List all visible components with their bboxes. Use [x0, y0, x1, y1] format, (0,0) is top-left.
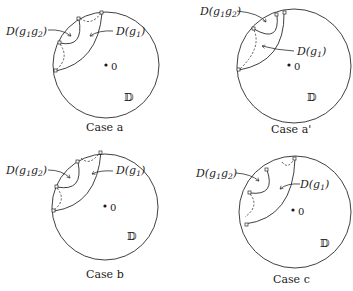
disk-label: 𝔻: [127, 230, 137, 243]
panel-case-b: D(g1g2) D(g1) 0 𝔻 Case b: [5, 151, 158, 281]
dashed-geodesic-left: [56, 44, 64, 70]
dashed-geodesic-top: [282, 159, 294, 165]
origin-label: 0: [298, 206, 304, 217]
arrow-to-g1: [90, 31, 113, 36]
geodesic-g1g2: [250, 170, 269, 193]
geodesic-g1: [245, 159, 295, 224]
right-angle-marker: [77, 17, 80, 20]
right-angle-marker: [283, 11, 286, 14]
arrow-to-g1g2: [48, 170, 70, 178]
dashed-geodesic-left: [54, 188, 61, 210]
right-angle-marker: [293, 157, 296, 160]
origin-dot: [287, 63, 290, 66]
right-angle-marker: [245, 223, 248, 226]
label-d-g1g2: D(g1g2): [5, 164, 47, 178]
panel-case-c: D(g1g2) D(g1) 0 𝔻 Case c: [195, 156, 351, 286]
origin-label: 0: [110, 202, 116, 213]
right-angle-marker: [248, 191, 251, 194]
panel-case-a-prime: D(g1g2) D(g1) 0 𝔻 Case a': [199, 5, 351, 136]
label-d-g1: D(g1): [296, 45, 326, 59]
arrow-to-g1: [262, 46, 294, 51]
label-d-g1g2: D(g1g2): [195, 167, 237, 181]
label-d-g1: D(g1): [115, 25, 145, 39]
arrow-to-g1g2: [48, 30, 71, 36]
origin-dot: [104, 63, 107, 66]
disk-label: 𝔻: [320, 237, 330, 250]
panel-case-a: D(g1g2) D(g1) 0 𝔻 Case a: [5, 11, 159, 134]
origin-dot: [103, 204, 106, 207]
unit-disk-boundary: [239, 156, 351, 268]
dashed-geodesic-left: [240, 30, 256, 69]
arrow-to-g1: [92, 171, 113, 174]
right-angle-marker: [52, 209, 55, 212]
label-d-g1g2: D(g1g2): [5, 25, 47, 39]
dashed-geodesic-top: [81, 152, 100, 161]
right-angle-marker: [76, 160, 79, 163]
figure-canvas: D(g1g2) D(g1) 0 𝔻 Case a D(g1g2) D(g1) 0…: [0, 0, 353, 291]
dashed-geodesic-left: [245, 194, 254, 217]
arrow-to-g1g2: [237, 11, 266, 22]
right-angle-marker: [55, 185, 58, 188]
right-angle-marker: [265, 168, 268, 171]
label-d-g1: D(g1): [299, 178, 329, 192]
right-angle-marker: [99, 151, 102, 154]
caption-case-c: Case c: [273, 273, 310, 286]
right-angle-marker: [252, 27, 255, 30]
geodesic-g1g2: [57, 162, 79, 188]
geodesic-g1g2: [254, 15, 277, 34]
right-angle-marker: [58, 41, 61, 44]
label-d-g1g2: D(g1g2): [199, 5, 241, 19]
caption-case-b: Case b: [86, 268, 124, 281]
right-angle-marker: [100, 11, 103, 14]
arrow-to-g1g2: [236, 173, 259, 181]
origin-label: 0: [111, 61, 117, 72]
right-angle-marker: [275, 13, 278, 16]
caption-case-a: Case a: [86, 121, 124, 134]
right-angle-marker: [54, 69, 57, 72]
label-d-g1: D(g1): [115, 164, 145, 178]
disk-label: 𝔻: [307, 91, 317, 104]
origin-dot: [291, 208, 294, 211]
caption-case-a-prime: Case a': [271, 123, 311, 136]
origin-label: 0: [294, 61, 300, 72]
disk-label: 𝔻: [124, 91, 134, 104]
right-angle-marker: [237, 68, 240, 71]
